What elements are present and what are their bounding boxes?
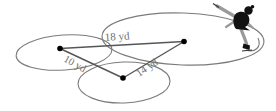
vertex-dot-bottom [120,75,126,81]
vertex-dot-left [57,46,63,52]
figure-skater-icon [213,4,254,52]
skater-torso [233,12,250,31]
triangle-side-top [60,42,184,49]
vertex-dot-right [181,39,187,45]
skater-boot [243,44,251,51]
skater-loops-diagram: 18 yd 10 yd 14 yd [0,0,276,111]
diagram-canvas: 18 yd 10 yd 14 yd [0,0,276,111]
label-top-side: 18 yd [104,29,130,43]
skater-hair-bun [251,5,255,9]
